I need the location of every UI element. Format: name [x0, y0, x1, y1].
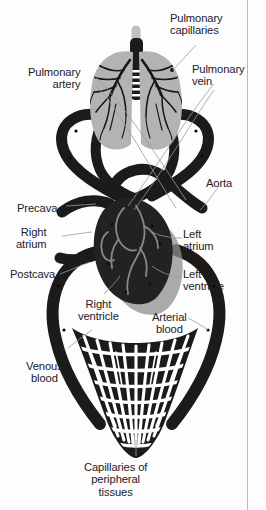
capillary-mesh [70, 336, 202, 446]
label-precava: Precava [17, 202, 57, 214]
label-line: Capillaries of [84, 461, 147, 473]
label-capillaries-peripheral-tissues: Capillaries of peripheral tissues [84, 461, 147, 498]
capillary-bed [70, 328, 202, 458]
label-line: ventricle [78, 310, 119, 322]
label-left-atrium: Left atrium [183, 228, 213, 253]
label-line: Aorta [206, 177, 232, 189]
label-pulmonary-capillaries: Pulmonary capillaries [170, 12, 223, 37]
label-pulmonary-artery: Pulmonary artery [28, 66, 81, 91]
label-line: Left [183, 228, 213, 240]
label-line: artery [28, 78, 81, 90]
label-line: atrium [183, 240, 213, 252]
label-postcava: Postcava [10, 268, 55, 280]
label-arterial-blood: Arterial blood [152, 311, 187, 336]
label-venous-blood: Venous blood [26, 360, 63, 385]
label-line: blood [152, 323, 187, 335]
label-line: vein [192, 75, 245, 87]
label-pulmonary-vein: Pulmonary vein [192, 63, 245, 88]
label-line: ventricle [183, 280, 224, 292]
label-line: Precava [17, 202, 57, 214]
label-right-ventricle: Right ventricle [78, 298, 119, 323]
label-left-ventricle: Left ventricle [183, 268, 224, 293]
label-line: Arterial [152, 311, 187, 323]
label-aorta: Aorta [206, 177, 232, 189]
label-line: peripheral [84, 473, 147, 485]
label-line: Right [78, 298, 119, 310]
label-line: Venous [26, 360, 63, 372]
label-right-atrium: Right atrium [16, 226, 46, 251]
label-line: tissues [84, 486, 147, 498]
label-line: Postcava [10, 268, 55, 280]
label-line: Right [16, 226, 46, 238]
label-line: Pulmonary [192, 63, 245, 75]
label-line: Pulmonary [28, 66, 81, 78]
label-line: atrium [16, 238, 46, 250]
label-line: Pulmonary [170, 12, 223, 24]
label-line: Left [183, 268, 224, 280]
label-line: blood [26, 372, 63, 384]
label-line: capillaries [170, 24, 223, 36]
